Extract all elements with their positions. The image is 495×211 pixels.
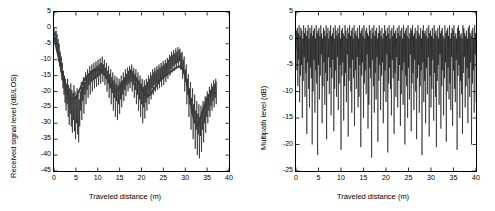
x-axis-label-left: Traveled distance (m) xyxy=(60,192,190,201)
y-tick-label: -45 xyxy=(32,166,51,173)
x-tick-label: 10 xyxy=(331,174,351,181)
y-tick-label: -15 xyxy=(274,113,293,120)
x-tick-label: 5 xyxy=(66,174,86,181)
chart-panel-multipath: Multipath level (dB) Traveled distance (… xyxy=(248,0,495,211)
y-axis-label-left: Received signal level (dB/LOS) xyxy=(9,74,18,178)
y-axis-label-right: Multipath level (dB) xyxy=(259,86,268,150)
y-tick-label: -10 xyxy=(274,87,293,94)
chart-panel-received-signal: Received signal level (dB/LOS) Traveled … xyxy=(0,0,247,211)
y-tick-label: -20 xyxy=(274,140,293,147)
x-tick-label: 40 xyxy=(466,174,486,181)
y-tick-label: -40 xyxy=(32,150,51,157)
x-tick-label: 20 xyxy=(376,174,396,181)
x-tick-label: 15 xyxy=(110,174,130,181)
y-tick-label: 0 xyxy=(274,34,293,41)
x-tick-label: 35 xyxy=(197,174,217,181)
x-tick-label: 30 xyxy=(421,174,441,181)
y-tick-label: -10 xyxy=(32,55,51,62)
x-axis-label-right: Traveled distance (m) xyxy=(308,192,438,201)
y-tick-label: 5 xyxy=(32,7,51,14)
x-tick-label: 25 xyxy=(153,174,173,181)
y-tick-label: 5 xyxy=(274,7,293,14)
x-tick-label: 15 xyxy=(354,174,374,181)
y-tick-label: -25 xyxy=(32,102,51,109)
y-tick-label: 0 xyxy=(32,23,51,30)
x-tick-label: 30 xyxy=(175,174,195,181)
x-tick-label: 40 xyxy=(219,174,239,181)
y-tick-label: -5 xyxy=(32,39,51,46)
x-tick-label: 0 xyxy=(44,174,64,181)
figure-container: Received signal level (dB/LOS) Traveled … xyxy=(0,0,495,211)
x-tick-label: 5 xyxy=(309,174,329,181)
x-tick-label: 20 xyxy=(132,174,152,181)
y-tick-label: -20 xyxy=(32,87,51,94)
x-tick-label: 35 xyxy=(444,174,464,181)
x-tick-label: 25 xyxy=(399,174,419,181)
x-tick-label: 10 xyxy=(88,174,108,181)
y-tick-label: -25 xyxy=(274,166,293,173)
y-tick-label: -35 xyxy=(32,134,51,141)
plot-area-multipath xyxy=(295,11,477,172)
y-tick-label: -5 xyxy=(274,60,293,67)
y-tick-label: -30 xyxy=(32,118,51,125)
plot-area-received-signal xyxy=(53,11,230,172)
y-tick-label: -15 xyxy=(32,71,51,78)
x-tick-label: 0 xyxy=(286,174,306,181)
